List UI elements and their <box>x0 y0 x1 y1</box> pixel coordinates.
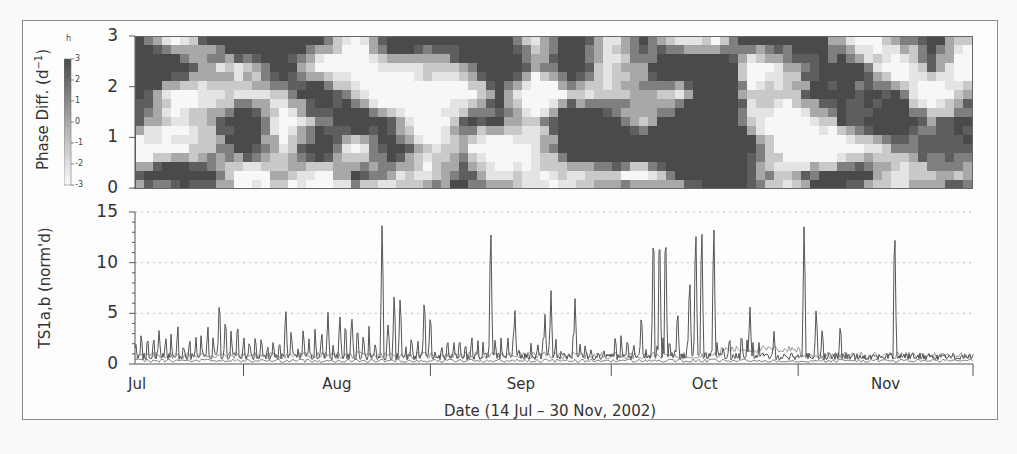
month-label: Jul <box>128 375 168 393</box>
colorbar-tick-label: 2 <box>75 75 80 84</box>
top-ylabel-sup: −1 <box>33 55 44 70</box>
month-label: Aug <box>307 375 367 393</box>
colorbar-tick-label: -2 <box>75 159 83 168</box>
top-ylabel-text: Phase Diff. (d <box>34 70 52 171</box>
colorbar-tick-label: 3 <box>75 54 80 63</box>
heatmap <box>135 36 973 189</box>
x-axis-label: Date (14 Jul – 30 Nov, 2002) <box>380 402 720 420</box>
top-ytick-label: 2 <box>88 76 118 96</box>
bottom-ytick-label: 5 <box>88 302 118 322</box>
colorbar-tick-label: 1 <box>75 96 80 105</box>
colorbar-tick-label: 0 <box>75 117 80 126</box>
bottom-ytick-label: 15 <box>88 201 118 221</box>
top-ytick-label: 0 <box>88 177 118 197</box>
month-label: Nov <box>856 375 916 393</box>
colorbar-title: h <box>66 34 71 43</box>
line-chart <box>120 205 980 380</box>
top-ylabel-close: ) <box>34 49 52 55</box>
month-label: Sep <box>491 375 551 393</box>
month-label: Oct <box>675 375 735 393</box>
bottom-panel-ylabel: TS1a,b (norm'd) <box>36 223 54 353</box>
colorbar-tick-label: -3 <box>75 180 83 189</box>
top-ytick-label: 1 <box>88 126 118 146</box>
colorbar-tick-label: -1 <box>75 138 83 147</box>
top-axis <box>120 30 140 195</box>
top-panel-ylabel: Phase Diff. (d−1) <box>33 30 52 190</box>
top-ytick-label: 3 <box>88 25 118 45</box>
bottom-ytick-label: 10 <box>88 252 118 272</box>
bottom-ytick-label: 0 <box>88 353 118 373</box>
